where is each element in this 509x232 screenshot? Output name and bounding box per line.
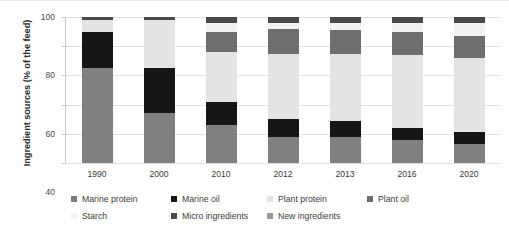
bar-segment-plant-protein[interactable] [268, 54, 299, 120]
legend-label: Marine protein [82, 194, 138, 204]
bar-2012[interactable] [268, 17, 299, 163]
bar-segment-plant-protein[interactable] [330, 54, 361, 121]
bar-segment-marine-protein[interactable] [144, 113, 175, 163]
bar-segment-marine-protein[interactable] [82, 68, 113, 163]
bar-2010[interactable] [206, 17, 237, 163]
y-axis-tick: 80 [62, 46, 66, 47]
y-axis-tick: 40 [62, 105, 66, 106]
legend-item-marine-oil[interactable]: Marine oil [171, 194, 220, 204]
y-axis-tick-label: 40 [45, 187, 55, 197]
bar-2013[interactable] [330, 17, 361, 163]
bar-segment-plant-oil[interactable] [454, 36, 485, 58]
bar-2020[interactable] [454, 17, 485, 163]
legend-swatch-icon [171, 213, 177, 219]
bar-1990[interactable] [82, 17, 113, 163]
legend-item-marine-protein[interactable]: Marine protein [71, 194, 138, 204]
x-axis-tick-label: 2000 [129, 169, 189, 179]
chart-legend: Marine proteinMarine oilPlant proteinPla… [71, 194, 501, 228]
bar-segment-plant-protein[interactable] [206, 52, 237, 102]
x-axis-tick-label: 2010 [191, 169, 251, 179]
bar-segment-plant-oil[interactable] [330, 30, 361, 53]
bar-segment-starch[interactable] [268, 23, 299, 29]
bar-segment-micro-ingredients[interactable] [206, 17, 237, 23]
legend-label: New ingredients [278, 211, 340, 221]
y-axis-tick-label: 80 [45, 70, 55, 80]
plot-area: 020406080100 199020002010201220132016202… [66, 17, 500, 163]
bar-segment-marine-protein[interactable] [330, 137, 361, 163]
bar-segment-marine-oil[interactable] [206, 102, 237, 125]
bar-segment-plant-protein[interactable] [454, 58, 485, 132]
x-axis-tick-label: 2012 [253, 169, 313, 179]
legend-label: Starch [82, 211, 107, 221]
x-axis-tick-label: 2020 [439, 169, 499, 179]
legend-label: Plant oil [378, 194, 409, 204]
legend-swatch-icon [171, 196, 177, 202]
bar-segment-plant-protein[interactable] [392, 55, 423, 128]
bar-segment-micro-ingredients[interactable] [392, 17, 423, 23]
legend-item-starch[interactable]: Starch [71, 211, 107, 221]
bar-segment-marine-protein[interactable] [454, 144, 485, 163]
bar-segment-plant-protein[interactable] [144, 20, 175, 68]
bar-segment-micro-ingredients[interactable] [144, 17, 175, 20]
bar-segment-plant-protein[interactable] [82, 20, 113, 32]
legend-item-plant-oil[interactable]: Plant oil [367, 194, 409, 204]
bar-segment-marine-protein[interactable] [392, 140, 423, 163]
legend-swatch-icon [267, 213, 273, 219]
bar-segment-micro-ingredients[interactable] [330, 17, 361, 23]
top-divider [0, 0, 509, 1]
gridline [66, 163, 500, 164]
bar-segment-plant-oil[interactable] [392, 32, 423, 55]
y-axis-tick: 60 [62, 75, 66, 76]
legend-swatch-icon [71, 213, 77, 219]
bar-segment-marine-oil[interactable] [392, 128, 423, 140]
y-axis-tick: 20 [62, 134, 66, 135]
legend-swatch-icon [267, 196, 273, 202]
y-axis-line [65, 17, 66, 163]
legend-label: Marine oil [182, 194, 220, 204]
y-axis-tick: 0 [62, 163, 66, 164]
bar-segment-marine-protein[interactable] [206, 125, 237, 163]
bar-segment-marine-oil[interactable] [82, 32, 113, 69]
bar-segment-marine-oil[interactable] [144, 68, 175, 113]
x-axis-tick-label: 2016 [377, 169, 437, 179]
stacked-bar-chart: Ingredient sources (% of the feed) 02040… [0, 0, 509, 232]
bar-2000[interactable] [144, 17, 175, 163]
bar-segment-plant-oil[interactable] [268, 29, 299, 54]
bar-segment-micro-ingredients[interactable] [268, 17, 299, 23]
x-axis-tick-label: 2013 [315, 169, 375, 179]
y-axis-tick-label: 100 [41, 12, 55, 22]
legend-label: Micro ingredients [182, 211, 248, 221]
legend-swatch-icon [71, 196, 77, 202]
legend-item-new-ingredients[interactable]: New ingredients [267, 211, 340, 221]
bar-segment-marine-oil[interactable] [268, 119, 299, 137]
bar-segment-starch[interactable] [206, 23, 237, 32]
y-axis-title: Ingredient sources (% of the feed) [22, 8, 32, 178]
x-axis-tick-label: 1990 [67, 169, 127, 179]
bar-segment-marine-oil[interactable] [454, 132, 485, 144]
legend-label: Plant protein [278, 194, 327, 204]
bar-segment-starch[interactable] [330, 23, 361, 30]
bar-segment-marine-oil[interactable] [330, 121, 361, 137]
bar-segment-micro-ingredients[interactable] [454, 17, 485, 23]
bar-segment-plant-oil[interactable] [206, 32, 237, 52]
bar-segment-starch[interactable] [392, 23, 423, 32]
bar-segment-micro-ingredients[interactable] [82, 17, 113, 20]
bar-segment-marine-protein[interactable] [268, 137, 299, 163]
legend-swatch-icon [367, 196, 373, 202]
legend-item-micro-ingredients[interactable]: Micro ingredients [171, 211, 248, 221]
bar-2016[interactable] [392, 17, 423, 163]
y-axis-tick: 100 [62, 17, 66, 18]
legend-item-plant-protein[interactable]: Plant protein [267, 194, 327, 204]
y-axis-tick-label: 60 [45, 129, 55, 139]
bar-segment-starch[interactable] [454, 23, 485, 36]
